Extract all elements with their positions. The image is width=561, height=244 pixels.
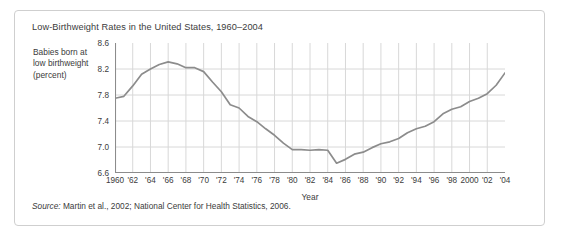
x-tick-90: '90	[376, 176, 387, 185]
x-tick-94: '94	[411, 176, 422, 185]
figure-panel: Low-Birthweight Rates in the United Stat…	[14, 10, 545, 226]
x-tick-68: '68	[181, 176, 192, 185]
y-tick-8.2: 8.2	[98, 65, 109, 74]
x-tick-86: '86	[340, 176, 351, 185]
y-tick-7.4: 7.4	[98, 117, 109, 126]
x-tick-96: '96	[429, 176, 440, 185]
x-tick-76: '76	[251, 176, 262, 185]
x-tick-62: '62	[127, 176, 138, 185]
x-tick-66: '66	[163, 176, 174, 185]
plot-area	[115, 43, 505, 173]
x-tick-labels: 1960'62'64'66'68'70'72'74'76'78'80'82'84…	[115, 176, 505, 190]
y-axis-label: Babies born at low birthweight (percent)	[33, 47, 95, 81]
y-tick-7.0: 7.0	[98, 143, 109, 152]
x-tick-88: '88	[358, 176, 369, 185]
y-tick-8.6: 8.6	[98, 39, 109, 48]
plot-wrapper: 6.67.07.47.88.28.6 1960'62'64'66'68'70'7…	[93, 43, 533, 193]
x-tick-04: '04	[500, 176, 511, 185]
x-tick-78: '78	[269, 176, 280, 185]
x-tick-82: '82	[305, 176, 316, 185]
x-tick-84: '84	[322, 176, 333, 185]
x-tick-80: '80	[287, 176, 298, 185]
source-text: Martin et al., 2002; National Center for…	[61, 201, 291, 211]
x-tick-02: '02	[482, 176, 493, 185]
x-tick-2000: 2000	[460, 176, 478, 185]
y-tick-7.8: 7.8	[98, 91, 109, 100]
x-tick-70: '70	[198, 176, 209, 185]
x-tick-72: '72	[216, 176, 227, 185]
x-tick-64: '64	[145, 176, 156, 185]
line-chart-svg	[115, 43, 505, 173]
x-tick-98: '98	[446, 176, 457, 185]
y-tick-labels: 6.67.07.47.88.28.6	[93, 43, 109, 173]
source-note: Source: Martin et al., 2002; National Ce…	[32, 201, 291, 211]
x-tick-74: '74	[234, 176, 245, 185]
source-prefix: Source:	[32, 201, 61, 211]
x-tick-92: '92	[393, 176, 404, 185]
chart-title: Low-Birthweight Rates in the United Stat…	[32, 22, 263, 32]
x-tick-1960: 1960	[106, 176, 124, 185]
